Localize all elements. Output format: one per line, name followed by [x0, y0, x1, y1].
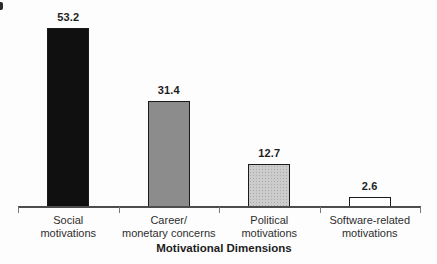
x-axis-tick-0	[18, 207, 19, 213]
x-axis-tick-4	[420, 207, 421, 213]
x-axis-title: Motivational Dimensions	[156, 242, 291, 254]
value-label-career: 31.4	[158, 84, 180, 96]
category-label-social: Social motivations	[13, 214, 123, 239]
plot-area: 53.2Social motivations31.4Career/ moneta…	[0, 0, 437, 264]
bar-social	[47, 28, 89, 207]
x-axis-tick-3	[320, 207, 321, 213]
bar-chart-figure: 53.2Social motivations31.4Career/ moneta…	[0, 0, 437, 264]
category-label-political: Political motivations	[214, 214, 324, 239]
category-label-career: Career/ monetary concerns	[114, 214, 224, 239]
value-label-political: 12.7	[258, 147, 280, 159]
category-label-software-related: Software-related motivations	[315, 214, 425, 239]
x-axis-tick-1	[119, 207, 120, 213]
bar-career	[148, 101, 190, 207]
bar-political	[248, 164, 290, 207]
value-label-social: 53.2	[57, 11, 79, 23]
value-label-software-related: 2.6	[362, 180, 378, 192]
x-axis-tick-2	[219, 207, 220, 213]
